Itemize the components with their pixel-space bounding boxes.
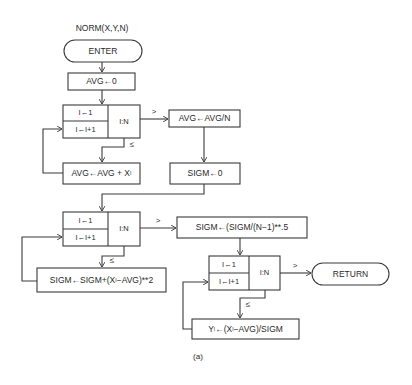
loop2-test: I:N [108, 212, 140, 246]
enter-terminal: ENTER [64, 40, 142, 62]
loop1-increment: I←I+1 [63, 121, 108, 138]
sigm-sqrt-box: SIGM←(SIGM/(N−1)**.5 [177, 217, 307, 238]
y-calc-text-b: ←(X [215, 325, 232, 334]
sigm-accumulate-text-a: SIGM←SIGM+(X [50, 276, 115, 285]
loop3-le-label: ≤ [243, 300, 253, 310]
loop1-le-label: ≤ [127, 140, 137, 150]
loop1-greater-label: > [149, 107, 159, 117]
loop2-greater-label: > [153, 216, 163, 226]
return-terminal: RETURN [312, 263, 389, 285]
loop2-le-label: ≤ [107, 256, 117, 266]
function-title: NORM(X,Y,N) [62, 22, 142, 34]
avg-accumulate-box: AVG←AVG + XI [63, 163, 140, 184]
avg-init-box: AVG←0 [68, 73, 135, 90]
sigm-accumulate-text-b: −AVG)**2 [117, 276, 153, 285]
loop2-init: I←1 [63, 212, 108, 229]
loop3-increment: I←I+1 [209, 273, 249, 290]
loop1-init: I←1 [63, 105, 108, 121]
y-normalize-box: YI←(XI−AVG)/SIGM [192, 319, 299, 339]
y-calc-text-c: −AVG)/SIGM [234, 325, 283, 334]
sigm-accumulate-box: SIGM←SIGM+(XI−AVG)**2 [37, 268, 166, 292]
avg-accumulate-text: AVG←AVG + X [72, 169, 131, 178]
loop2-increment: I←I+1 [63, 229, 108, 246]
loop3-test: I:N [249, 256, 280, 290]
figure-caption: (a) [190, 351, 206, 363]
loop3-init: I←1 [209, 256, 249, 273]
subscript-i: I [130, 171, 131, 176]
sigm-init-box: SIGM←0 [170, 163, 240, 184]
avg-divide-box: AVG←AVG/N [169, 110, 240, 127]
loop1-test: I:N [108, 105, 140, 138]
loop3-greater-label: > [290, 261, 300, 271]
